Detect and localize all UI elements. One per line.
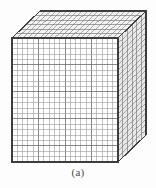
figure-caption: (a) [0, 166, 156, 179]
figure-container: (a) [0, 0, 156, 188]
front-face [12, 38, 118, 162]
base-ten-block-illustration [0, 0, 156, 188]
